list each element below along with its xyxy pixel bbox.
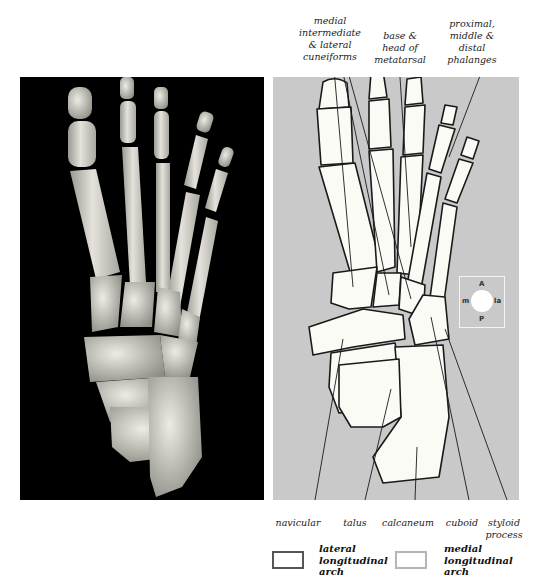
label-styloid-process: styloid process (482, 517, 526, 541)
photo-bones-illustration (20, 77, 264, 500)
compass-disc (471, 290, 493, 312)
compass-medial: m (462, 297, 469, 305)
compass-posterior: P (479, 315, 484, 323)
label-line: navicular (268, 517, 328, 529)
legend-line: arch (319, 566, 388, 578)
label-talus: talus (335, 517, 375, 529)
label-phalanges: proximal, middle & distal phalanges (437, 18, 507, 66)
label-line: middle & (437, 30, 507, 42)
legend-line: arch (444, 566, 513, 578)
compass-lateral: la (494, 297, 501, 305)
label-line: calcaneum (378, 517, 438, 529)
compass-anterior: A (479, 280, 484, 288)
label-line: cuboid (442, 517, 482, 529)
legend-label-lateral-arch: lateral longitudinal arch (319, 543, 388, 578)
orientation-compass: A P m la (459, 276, 505, 328)
label-line: phalanges (437, 54, 507, 66)
foot-skeleton-photo (20, 77, 264, 500)
label-line: base & (365, 30, 435, 42)
label-line: talus (335, 517, 375, 529)
legend-swatch-medial-arch (395, 551, 427, 569)
label-cuboid: cuboid (442, 517, 482, 529)
label-line: metatarsal (365, 54, 435, 66)
label-line: styloid (482, 517, 526, 529)
label-line: medial (290, 15, 370, 27)
legend-line: longitudinal (319, 555, 388, 567)
label-line: proximal, (437, 18, 507, 30)
label-calcaneum: calcaneum (378, 517, 438, 529)
label-line: head of (365, 42, 435, 54)
label-navicular: navicular (268, 517, 328, 529)
label-metatarsal: base & head of metatarsal (365, 30, 435, 66)
label-line: & lateral (290, 39, 370, 51)
label-line: distal (437, 42, 507, 54)
legend-line: lateral (319, 543, 388, 555)
legend-label-medial-arch: medial longitudinal arch (444, 543, 513, 578)
label-line: process (482, 529, 526, 541)
label-cuneiforms: medial intermediate & lateral cuneiforms (290, 15, 370, 63)
legend-swatch-lateral-arch (272, 551, 304, 569)
legend-line: medial (444, 543, 513, 555)
legend-line: longitudinal (444, 555, 513, 567)
label-line: cuneiforms (290, 51, 370, 63)
label-line: intermediate (290, 27, 370, 39)
